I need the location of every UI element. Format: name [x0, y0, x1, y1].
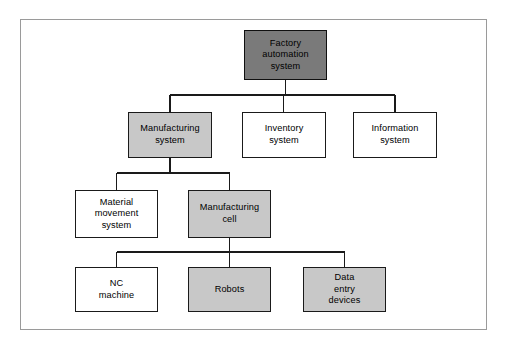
node-manufacturing-system[interactable]: Manufacturing system [128, 112, 212, 158]
node-label: Factory automation system [259, 38, 311, 73]
node-manufacturing-cell[interactable]: Manufacturing cell [188, 190, 271, 238]
node-label: Robots [212, 284, 248, 296]
node-label: Information system [368, 123, 421, 146]
node-data-entry-devices[interactable]: Data entry devices [303, 267, 386, 312]
node-robots[interactable]: Robots [188, 267, 271, 312]
node-label: Inventory system [262, 123, 307, 146]
node-factory-automation-system[interactable]: Factory automation system [244, 30, 327, 80]
diagram-canvas: Factory automation system Manufacturing … [0, 0, 506, 343]
node-label: Manufacturing system [137, 123, 203, 146]
node-label: Material movement system [92, 197, 142, 232]
node-nc-machine[interactable]: NC machine [75, 267, 158, 312]
node-material-movement-system[interactable]: Material movement system [75, 190, 158, 238]
node-label: Manufacturing cell [197, 202, 263, 225]
node-label: Data entry devices [326, 272, 364, 307]
node-inventory-system[interactable]: Inventory system [242, 112, 326, 158]
node-label: NC machine [96, 278, 137, 301]
node-information-system[interactable]: Information system [353, 112, 437, 158]
